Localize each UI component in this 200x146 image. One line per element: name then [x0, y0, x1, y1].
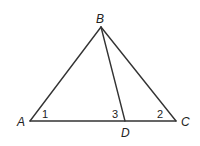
angle-label-2: 2: [157, 108, 163, 120]
segment-bc: [101, 27, 176, 121]
vertex-label-a: A: [16, 115, 25, 129]
vertex-label-c: C: [181, 115, 190, 129]
triangle-diagram: B A C D 1 3 2: [0, 0, 200, 146]
vertex-label-b: B: [96, 12, 104, 26]
angle-label-1: 1: [42, 108, 48, 120]
angle-label-3: 3: [112, 108, 118, 120]
segment-ab: [30, 27, 101, 121]
vertex-label-d: D: [121, 126, 130, 140]
